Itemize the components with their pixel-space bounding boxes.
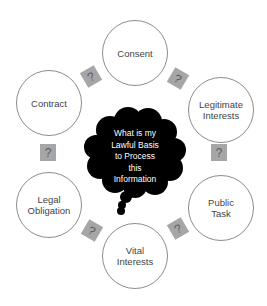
question-line: What is my <box>92 128 178 140</box>
basis-label: Legal Obligation <box>26 194 72 216</box>
question-mark-icon: ? <box>40 144 56 161</box>
basis-label: Public Task <box>203 197 239 219</box>
basis-label: Consent <box>117 48 152 59</box>
question-mark-icon: ? <box>211 144 227 161</box>
center-question: What is my Lawful Basis to Process this … <box>92 128 178 186</box>
basis-label: Legitimate Interests <box>196 99 246 121</box>
basis-label: Vital Interests <box>115 245 155 267</box>
basis-public-task: Public Task <box>188 175 254 241</box>
basis-legitimate-interests: Legitimate Interests <box>188 77 254 143</box>
basis-label: Contract <box>31 98 67 109</box>
question-line: Information <box>92 174 178 186</box>
question-line: Lawful Basis <box>92 140 178 152</box>
basis-contract: Contract <box>16 70 82 136</box>
basis-legal-obligation: Legal Obligation <box>16 172 82 238</box>
basis-vital-interests: Vital Interests <box>102 223 168 289</box>
question-line: to Process <box>92 151 178 163</box>
basis-consent: Consent <box>102 20 168 86</box>
question-line: this <box>92 163 178 175</box>
